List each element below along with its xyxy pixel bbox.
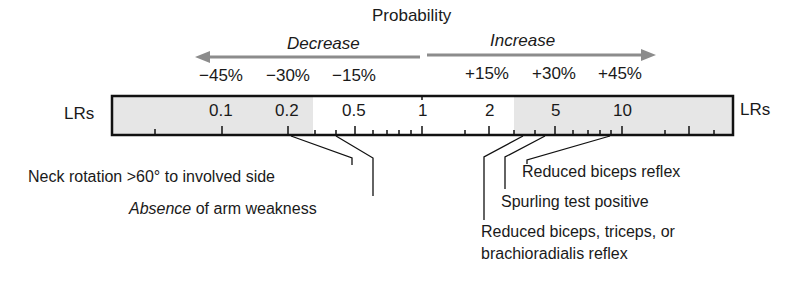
tick-label-1: 1 [418,101,427,121]
lrs-left-label: LRs [64,104,94,124]
finding-absence-rest: of arm weakness [191,200,316,217]
lrs-right-label: LRs [740,100,770,120]
tick-label-0.1: 0.1 [209,101,233,121]
tick-label-2: 2 [485,101,494,121]
leader-reduced-biceps [527,136,610,164]
finding-spurling: Spurling test positive [501,193,649,211]
increase-label: Increase [490,31,555,51]
finding-reduced-multi-line1: Reduced biceps, triceps, or [481,223,675,241]
finding-reduced-biceps: Reduced biceps reflex [522,163,680,181]
tick-label-10: 10 [613,101,632,121]
leader-absence-arm-weakness [336,136,373,196]
pct-pos-15: +15% [465,64,509,84]
pct-neg-30: −30% [266,66,310,86]
finding-absence-italic: Absence [129,200,191,217]
pct-pos-45: +45% [598,64,642,84]
finding-reduced-multi-line2: brachioradialis reflex [481,245,628,263]
finding-neck-rotation: Neck rotation >60° to involved side [28,168,275,186]
lr-scale-graphic [0,0,788,284]
pct-neg-15: −15% [332,66,376,86]
tick-label-5: 5 [551,101,560,121]
tick-label-0.5: 0.5 [342,101,366,121]
decrease-label: Decrease [287,34,360,54]
pct-neg-45: −45% [199,66,243,86]
chart-title: Probability [372,6,451,26]
finding-absence-arm-weakness: Absence of arm weakness [129,200,317,218]
tick-label-0.2: 0.2 [275,101,299,121]
pct-pos-30: +30% [532,64,576,84]
